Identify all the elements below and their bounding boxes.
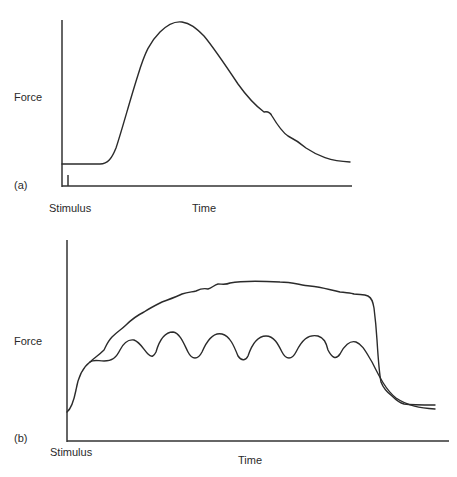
panel-a-y-axis-label: Force — [14, 91, 42, 103]
panel-b-stimulus-label: Stimulus — [50, 446, 92, 458]
panel-b-fused-tetanus-curve — [90, 281, 435, 405]
panel-a-axes — [62, 20, 352, 187]
panel-a-twitch-curve — [62, 22, 350, 164]
panel-a-stimulus-label: Stimulus — [49, 202, 91, 214]
panel-a-label: (a) — [14, 179, 27, 191]
panel-b-x-axis-label: Time — [238, 454, 262, 466]
panel-b-label: (b) — [14, 432, 27, 444]
figure-canvas — [0, 0, 457, 477]
panel-b-axes — [67, 240, 449, 442]
panel-a-x-axis-label: Time — [192, 202, 216, 214]
panel-b-y-axis-label: Force — [14, 335, 42, 347]
